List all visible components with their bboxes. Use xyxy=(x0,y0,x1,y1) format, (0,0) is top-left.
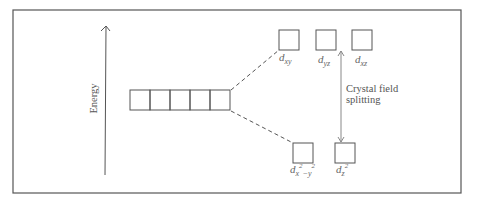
orbital-box xyxy=(170,90,190,110)
label-dxz: dxz xyxy=(355,53,367,68)
degenerate-orbitals xyxy=(130,90,230,110)
label-dz2: dz2 xyxy=(336,162,348,178)
orbital-box-dxy xyxy=(279,30,299,50)
orbital-box-dxz xyxy=(352,30,372,50)
diagram-canvas xyxy=(0,0,484,206)
orbital-box xyxy=(130,90,150,110)
orbital-box-dyz xyxy=(316,30,336,50)
orbital-box-dz2 xyxy=(335,143,355,163)
energy-label: Energy xyxy=(88,83,99,113)
label-dxy: dxy xyxy=(279,51,292,66)
label-dx2-y2: dx2−y2 xyxy=(290,162,315,178)
orbital-box-dx2-y2 xyxy=(293,143,313,163)
orbital-box xyxy=(190,90,210,110)
connector-lower xyxy=(231,111,293,143)
splitting-double-arrow xyxy=(338,51,344,142)
label-dyz: dyz xyxy=(318,53,330,68)
energy-axis-arrow xyxy=(101,26,110,175)
splitting-label: Crystal field splitting xyxy=(346,83,398,105)
orbital-box xyxy=(210,90,230,110)
connector-upper xyxy=(231,50,279,90)
orbital-box xyxy=(150,90,170,110)
